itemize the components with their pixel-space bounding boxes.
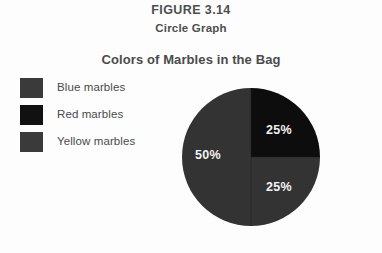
pie-label-yellow-marbles: 50% bbox=[195, 148, 221, 162]
legend-label-blue-marbles: Blue marbles bbox=[57, 81, 125, 93]
figure-subtitle: Circle Graph bbox=[0, 22, 382, 34]
figure-container: FIGURE 3.14 Circle Graph Colors of Marbl… bbox=[0, 0, 382, 253]
chart-title: Colors of Marbles in the Bag bbox=[0, 52, 382, 67]
legend-item-red-marbles: Red marbles bbox=[20, 105, 170, 132]
pie-label-red-marbles: 25% bbox=[266, 123, 292, 137]
legend-label-yellow-marbles: Yellow marbles bbox=[57, 135, 135, 147]
pie-label-blue-marbles: 25% bbox=[266, 180, 292, 194]
legend-item-yellow-marbles: Yellow marbles bbox=[20, 132, 170, 159]
pie-chart: 50% 25% 25% bbox=[182, 88, 320, 226]
legend-label-red-marbles: Red marbles bbox=[57, 108, 123, 120]
color-swatch-icon-red-marbles bbox=[20, 105, 43, 125]
color-swatch-icon-yellow-marbles bbox=[20, 132, 43, 152]
figure-number: FIGURE 3.14 bbox=[0, 3, 382, 17]
color-swatch-icon-blue-marbles bbox=[20, 78, 43, 98]
legend-item-blue-marbles: Blue marbles bbox=[20, 78, 170, 105]
chart-legend: Blue marbles Red marbles Yellow marbles bbox=[20, 78, 170, 159]
